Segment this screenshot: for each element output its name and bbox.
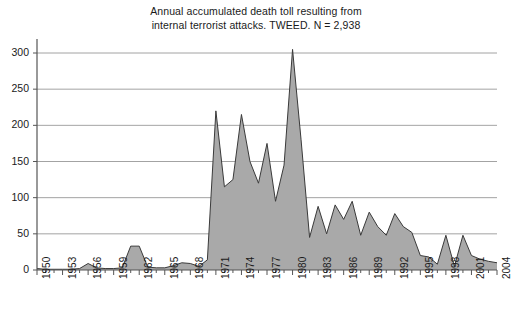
x-tick-label: 1977 [271,257,282,279]
x-tick-label: 1989 [373,257,384,279]
x-tick-label: 1962 [143,257,154,279]
x-tick-label: 1968 [194,257,205,279]
area-series-deaths [37,49,497,270]
x-tick-label: 1950 [41,257,52,279]
x-tick-label: 1992 [399,257,410,279]
x-tick-label: 2001 [475,257,486,279]
x-tick-label: 1965 [169,257,180,279]
y-tick-label: 150 [1,155,29,167]
x-tick-label: 1953 [67,257,78,279]
x-tick-label: 1983 [322,257,333,279]
x-tick-label: 1980 [297,257,308,279]
x-tick-label: 1995 [424,257,435,279]
chart-figure: Annual accumulated death toll resulting … [0,0,512,316]
y-tick-label: 300 [1,46,29,58]
x-tick-label: 1971 [220,257,231,279]
y-tick-label: 200 [1,118,29,130]
y-tick-label: 100 [1,191,29,203]
y-tick-label: 0 [1,263,29,275]
x-tick-label: 1959 [118,257,129,279]
y-tick-label: 50 [1,227,29,239]
y-tick-label: 250 [1,82,29,94]
x-tick-label: 1998 [450,257,461,279]
x-tick-label: 1974 [245,257,256,279]
x-tick-label: 1956 [92,257,103,279]
x-tick-label: 2004 [501,257,512,279]
x-tick-label: 1986 [348,257,359,279]
